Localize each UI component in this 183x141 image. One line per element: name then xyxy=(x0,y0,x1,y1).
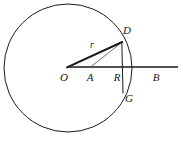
radius-length-label-r: r xyxy=(90,40,94,50)
point-label-O: O xyxy=(60,72,68,83)
geometry-diagram: O A R B D G r xyxy=(0,0,183,141)
vertical-line-D-to-G xyxy=(122,42,123,93)
point-label-R: R xyxy=(114,72,121,83)
point-label-D: D xyxy=(123,25,131,36)
point-label-G: G xyxy=(125,93,133,104)
point-label-B: B xyxy=(153,72,160,83)
point-label-A: A xyxy=(87,72,94,83)
